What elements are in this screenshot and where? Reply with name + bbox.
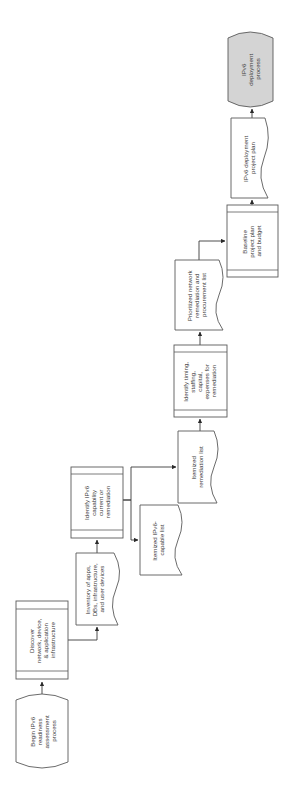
node-inventory-label: Inventory of apps, DBs, infrastructure, … [84, 562, 105, 617]
node-begin[interactable]: Begin IPv6 readiness assessment process [16, 694, 68, 768]
node-project-plan[interactable]: IPv6 deployment project plan [231, 118, 268, 198]
edge-identify-remediation [123, 467, 176, 500]
node-discover[interactable]: Discover network, device, & application … [16, 601, 68, 679]
node-identify-capability-label: Identify IPv6 capability current or reme… [83, 484, 111, 520]
node-itemized-capable[interactable]: Itemized IPv6- capable list [140, 505, 182, 575]
node-baseline-label: Baseline project plan and budget [241, 224, 262, 258]
node-itemized-capable-label: Itemized IPv6- capable list [151, 519, 165, 560]
node-prioritized[interactable]: Prioritized network remediation and proc… [175, 260, 223, 330]
node-baseline[interactable]: Baseline project plan and budget [227, 205, 278, 277]
flowchart-canvas: Begin IPv6 readiness assessment process … [0, 0, 287, 809]
node-deployment[interactable]: IPv6 deployment process [228, 32, 273, 107]
node-itemized-remediation[interactable]: Itemized remediation list [178, 431, 218, 503]
node-prioritized-label: Prioritized network remediation and proc… [186, 269, 207, 322]
node-identify-timing[interactable]: Identify timing, staffing, capital, expe… [174, 345, 227, 417]
node-identify-capability[interactable]: Identify IPv6 capability current or reme… [71, 467, 123, 538]
edge-prioritized-baseline [199, 241, 225, 260]
edge-discover-inventory [68, 627, 97, 640]
edge-identify-capable [123, 500, 138, 540]
node-inventory[interactable]: Inventory of apps, DBs, infrastructure, … [76, 553, 120, 625]
